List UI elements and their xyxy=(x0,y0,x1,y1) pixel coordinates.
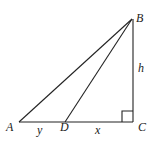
point-label-B: B xyxy=(136,11,144,25)
triangle-diagram: B h A y D x C xyxy=(0,0,162,150)
point-label-A: A xyxy=(5,120,14,134)
point-label-C: C xyxy=(138,120,147,134)
right-angle-marker xyxy=(122,111,133,122)
segment-label-x: x xyxy=(94,123,101,137)
segment-label-y: y xyxy=(36,123,43,137)
segment-label-h: h xyxy=(138,61,144,75)
point-label-D: D xyxy=(59,120,69,134)
